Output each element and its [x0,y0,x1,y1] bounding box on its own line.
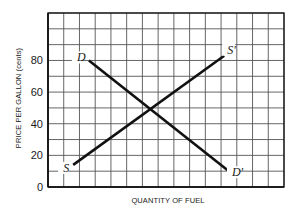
supply-demand-chart: 020406080 DD'SS' QUANTITY OF FUEL PRICE … [0,0,299,210]
label-s: S [63,161,69,175]
y-tick-label: 80 [31,54,43,66]
y-tick-label: 20 [31,149,43,161]
axes [48,13,284,187]
plot-frame [48,13,284,187]
demand-curve [89,60,229,171]
y-tick-label: 60 [31,86,43,98]
y-tick-label: 40 [31,118,43,130]
y-axis-label: PRICE PER GALLON (cents) [14,47,23,148]
label-s-prime: S' [227,43,236,57]
grid [48,13,284,187]
y-tick-label: 0 [37,181,43,193]
label-d: D [76,50,86,64]
y-tick-labels: 020406080 [31,54,43,193]
x-axis-label: QUANTITY OF FUEL [131,196,204,205]
label-d-prime: D' [231,165,244,179]
